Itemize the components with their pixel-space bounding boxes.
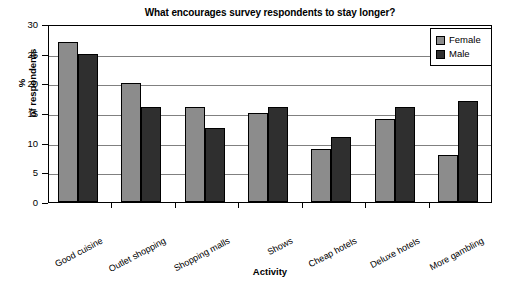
legend-swatch-female-icon <box>436 36 445 45</box>
legend-label-male: Male <box>449 49 470 59</box>
y-axis-tick-label: 25 <box>0 50 38 60</box>
legend-item-male: Male <box>436 47 487 61</box>
bar-male <box>458 101 478 202</box>
y-axis-tick <box>42 203 48 204</box>
plot-area <box>48 25 492 203</box>
bar-female <box>248 113 268 202</box>
bar-female <box>311 149 331 202</box>
bar-female <box>121 83 141 202</box>
legend-swatch-male-icon <box>436 50 445 59</box>
legend: Female Male <box>430 28 492 66</box>
y-axis-tick-label: 20 <box>0 79 38 89</box>
bar-male <box>331 137 351 202</box>
bar-female <box>438 155 458 202</box>
legend-label-female: Female <box>449 35 481 45</box>
bar-male <box>141 107 161 202</box>
x-axis-tick <box>302 203 303 208</box>
x-axis-tick <box>175 203 176 208</box>
x-axis-tick <box>365 203 366 208</box>
bars-layer <box>49 26 491 202</box>
bar-chart: What encourages survey respondents to st… <box>0 0 506 290</box>
y-axis-tick-label: 15 <box>0 109 38 119</box>
bar-male <box>268 107 288 202</box>
y-axis-tick-label: 0 <box>0 198 38 208</box>
legend-item-female: Female <box>436 33 487 47</box>
x-axis-title: Activity <box>48 266 492 277</box>
x-axis-tick <box>111 203 112 208</box>
y-axis-tick-label: 30 <box>0 20 38 30</box>
x-axis-tick <box>238 203 239 208</box>
y-axis-tick-label: 10 <box>0 139 38 149</box>
bar-male <box>205 128 225 202</box>
bar-female <box>58 42 78 202</box>
x-axis-tick <box>429 203 430 208</box>
bar-male <box>78 54 98 202</box>
bar-female <box>185 107 205 202</box>
y-axis-tick-label: 5 <box>0 168 38 178</box>
bar-male <box>395 107 415 202</box>
chart-title: What encourages survey respondents to st… <box>48 7 492 18</box>
bar-female <box>375 119 395 202</box>
